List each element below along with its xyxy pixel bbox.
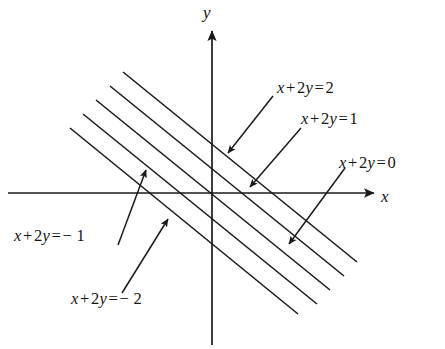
eq0-variable-y: y	[368, 153, 376, 172]
eqm1-variable-y: y	[43, 226, 51, 245]
leader-arrow-eq1	[250, 128, 301, 187]
eqm2-coefficient: 2	[91, 289, 99, 308]
line-x-plus-2y-equals-2	[123, 72, 357, 262]
eq0-plus-operator: +	[347, 153, 360, 172]
leader-arrow-eq-neg1	[118, 170, 146, 245]
eq1-coefficient: 2	[321, 109, 329, 128]
eq2-coefficient: 2	[297, 78, 305, 97]
eqm1-variable-x: x	[14, 226, 22, 245]
leader-arrow-eq0	[289, 168, 345, 244]
leader-arrow-eq-neg2	[122, 219, 168, 293]
equation-label-x-plus-2y-equals-neg2: x+2y=− 2	[71, 291, 142, 308]
eq0-coefficient: 2	[359, 153, 367, 172]
eqm2-variable-x: x	[71, 289, 79, 308]
equation-label-x-plus-2y-equals-neg1: x+2y=− 1	[14, 228, 85, 245]
eq1-variable-y: y	[330, 109, 338, 128]
eq2-right-hand-side: 2	[326, 78, 334, 97]
eq2-equals-operator: =	[313, 78, 326, 97]
x-axis-label: x	[381, 188, 389, 205]
eqm1-equals-operator: =	[50, 226, 63, 245]
eqm2-variable-y: y	[100, 289, 108, 308]
eqm2-plus-operator: +	[79, 289, 92, 308]
eq1-plus-operator: +	[309, 109, 322, 128]
eq1-equals-operator: =	[337, 109, 350, 128]
eqm2-equals-operator: =	[107, 289, 120, 308]
line-x-plus-2y-equals-neg2	[70, 128, 298, 314]
eq2-variable-y: y	[306, 78, 314, 97]
eqm1-plus-operator: +	[22, 226, 35, 245]
equation-label-x-plus-2y-equals-1: x+2y=1	[301, 111, 358, 128]
eq0-variable-x: x	[339, 153, 347, 172]
eqm2-right-hand-side: − 2	[120, 289, 142, 308]
eq2-plus-operator: +	[285, 78, 298, 97]
equation-label-x-plus-2y-equals-0: x+2y=0	[339, 155, 396, 172]
eq1-variable-x: x	[301, 109, 309, 128]
eq1-right-hand-side: 1	[350, 109, 358, 128]
line-x-plus-2y-equals-neg1	[83, 114, 317, 304]
leader-arrow-eq2	[228, 96, 273, 153]
diagram-svg	[0, 0, 445, 349]
line-x-plus-2y-equals-0	[96, 100, 330, 290]
eq0-equals-operator: =	[375, 153, 388, 172]
eq0-right-hand-side: 0	[388, 153, 396, 172]
eq2-variable-x: x	[277, 78, 285, 97]
equation-label-x-plus-2y-equals-2: x+2y=2	[277, 80, 334, 97]
y-axis-label: y	[203, 4, 211, 21]
eqm1-right-hand-side: − 1	[63, 226, 85, 245]
eqm1-coefficient: 2	[34, 226, 42, 245]
figure-canvas: y x x+2y=2 x+2y=1 x+2y=0 x+2y=− 1 x+2y=−…	[0, 0, 445, 349]
